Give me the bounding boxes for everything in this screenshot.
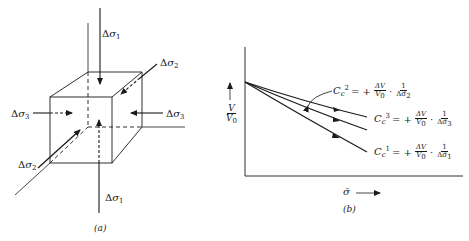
label-sigma2-top: Δσ2 — [160, 58, 179, 70]
equation-cc1: Cc1 = + ΔVV0 · 1Δσ̄1 — [374, 144, 454, 162]
caption-a: (a) — [94, 224, 106, 233]
label-sigma1-top: Δσ1 — [102, 29, 121, 41]
y-axis-label: V V0 — [224, 104, 239, 126]
cc2-leader-line — [308, 91, 332, 106]
equation-cc3: Cc3 = + ΔVV0 · 1Δσ̄3 — [374, 111, 454, 129]
stress-cube — [50, 72, 142, 163]
label-sigma1-bottom: Δσ1 — [105, 193, 124, 205]
cube-front-face — [50, 97, 112, 163]
curve-arrowheads — [332, 107, 340, 138]
label-sigma2-bottom: Δσ2 — [18, 160, 37, 172]
x-axis-label: σ̄ — [343, 187, 350, 197]
sigma2-top-arrow — [121, 64, 157, 94]
equation-cc2: Cc2 = + ΔVV0 · 1Δσ̄2 — [333, 83, 413, 101]
sigma2-bottom-arrow — [38, 130, 80, 168]
label-sigma3-left: Δσ3 — [11, 109, 30, 121]
label-sigma3-right: Δσ3 — [166, 109, 185, 121]
caption-b: (b) — [343, 205, 356, 214]
